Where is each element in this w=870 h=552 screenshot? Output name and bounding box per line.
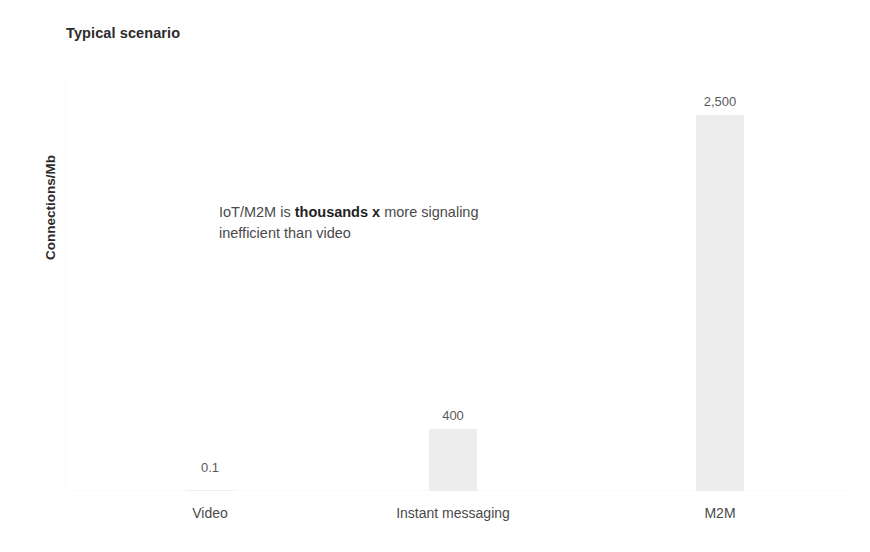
bar-m2m[interactable] [696, 115, 744, 491]
x-axis-label-instant-messaging: Instant messaging [358, 505, 548, 521]
x-axis-label-m2m: M2M [625, 505, 815, 521]
x-axis-label-video: Video [115, 505, 305, 521]
annotation-text-bold: thousands x [295, 204, 380, 220]
x-axis-labels: Video Instant messaging M2M [65, 505, 855, 529]
plot-area: 0.1 400 2,500 [65, 80, 855, 491]
bar-value-m2m: 2,500 [704, 94, 737, 109]
chart-annotation: IoT/M2M is thousands x more signaling in… [219, 202, 479, 244]
bar-group-m2m: 2,500 [625, 80, 815, 491]
bar-value-video: 0.1 [201, 460, 219, 475]
chart-page: { "chart_data": { "type": "bar", "title"… [0, 0, 870, 552]
bar-video[interactable] [186, 490, 234, 491]
page-title: Typical scenario [66, 25, 180, 41]
bar-group-video: 0.1 [115, 80, 305, 491]
bar-instant-messaging[interactable] [429, 429, 477, 491]
y-axis-label: Connections/Mb [43, 128, 58, 288]
bar-series: 0.1 400 2,500 [65, 80, 855, 491]
annotation-text-before: IoT/M2M is [219, 204, 295, 220]
bar-group-instant-messaging: 400 [358, 80, 548, 491]
bar-value-instant-messaging: 400 [442, 408, 464, 423]
annotation-text-after: more [380, 204, 417, 220]
